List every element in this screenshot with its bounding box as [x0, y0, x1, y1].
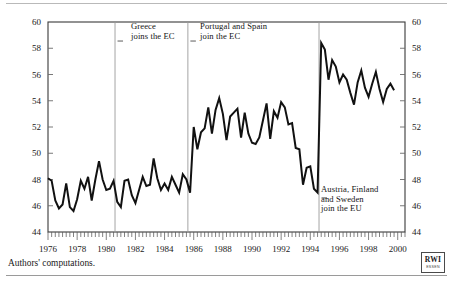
xtick-label-1988: 1988 [214, 244, 233, 254]
xtick-label-1976: 1976 [39, 244, 58, 254]
ytick-label-left-46: 46 [32, 201, 42, 211]
ytick-label-right-46: 46 [412, 201, 422, 211]
xtick-label-1980: 1980 [97, 244, 116, 254]
ytick-label-left-50: 50 [32, 148, 42, 158]
xtick-label-1986: 1986 [185, 244, 204, 254]
rwi-logo-sub: ESSEN [426, 265, 440, 269]
xtick-label-1990: 1990 [243, 244, 262, 254]
rwi-logo: RWI ESSEN [421, 252, 445, 273]
xtick-label-1996: 1996 [330, 244, 349, 254]
annotation-greece: Greece joins the EC [131, 22, 175, 41]
ytick-label-right-44: 44 [412, 227, 422, 237]
ytick-label-left-60: 60 [32, 17, 42, 27]
annotation-greece-line2: joins the EC [131, 32, 175, 42]
annotation-iberia: Portugal and Spain join the EC [200, 22, 267, 41]
ytick-label-left-52: 52 [32, 122, 41, 132]
annotation-nordic: Austria, Finland and Sweden join the EU [321, 185, 378, 214]
ytick-label-left-48: 48 [32, 175, 42, 185]
xtick-label-1994: 1994 [301, 244, 320, 254]
ytick-label-left-44: 44 [32, 227, 42, 237]
ytick-label-left-56: 56 [32, 70, 42, 80]
source-note: Authors' computations. [8, 258, 95, 268]
figure-container: 4444464648485050525254545656585860601976… [0, 0, 453, 288]
annotation-iberia-line2: join the EC [200, 32, 267, 42]
annotation-nordic-line3: join the EU [321, 204, 378, 214]
line-chart: 4444464648485050525254545656585860601976… [0, 0, 453, 288]
xtick-label-1992: 1992 [272, 244, 290, 254]
xtick-label-2000: 2000 [389, 244, 408, 254]
xtick-label-1998: 1998 [360, 244, 379, 254]
ytick-label-right-48: 48 [412, 175, 422, 185]
ytick-label-left-54: 54 [32, 96, 42, 106]
ytick-label-right-60: 60 [412, 17, 422, 27]
ytick-label-right-58: 58 [412, 43, 422, 53]
ytick-label-right-52: 52 [412, 122, 421, 132]
ytick-label-right-50: 50 [412, 148, 422, 158]
ytick-label-right-56: 56 [412, 70, 422, 80]
ytick-label-left-58: 58 [32, 43, 42, 53]
ytick-label-right-54: 54 [412, 96, 422, 106]
rwi-logo-main: RWI [425, 256, 441, 264]
xtick-label-1978: 1978 [68, 244, 87, 254]
xtick-label-1984: 1984 [156, 244, 175, 254]
xtick-label-1982: 1982 [126, 244, 144, 254]
